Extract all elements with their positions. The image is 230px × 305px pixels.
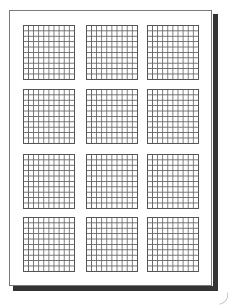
graph-grid-r1c3 — [147, 25, 199, 80]
graph-grid-r3c1 — [23, 154, 75, 209]
graph-grid-r4c1 — [23, 217, 75, 272]
page-curl-icon — [217, 292, 230, 305]
graph-grid-r4c3 — [147, 217, 199, 272]
page-shadow-right — [213, 14, 218, 291]
graph-grid-r3c3 — [147, 154, 199, 209]
graph-grid-r2c3 — [147, 89, 199, 144]
graph-grid-r1c1 — [23, 25, 75, 80]
page-shadow-bottom — [13, 286, 218, 291]
page-preview — [0, 0, 230, 305]
graph-grid-r4c2 — [86, 217, 138, 272]
graph-grid-r2c2 — [86, 89, 138, 144]
graph-grid-r3c2 — [86, 154, 138, 209]
graph-grid-r2c1 — [23, 89, 75, 144]
graph-grid-r1c2 — [86, 25, 138, 80]
